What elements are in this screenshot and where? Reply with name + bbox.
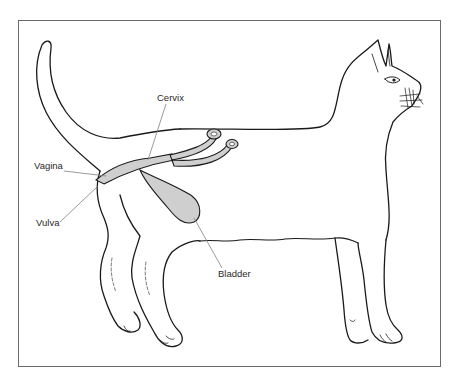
label-vulva: Vulva [36,217,59,228]
cat-paw-toes [350,320,392,342]
cat-front-leg-far [335,238,368,343]
label-cervix: Cervix [157,92,184,103]
cat-hind-thigh [97,171,140,332]
cat-front-leg-near [358,240,402,343]
cat-pupil [392,78,395,81]
cat-hind-toes [124,326,174,343]
cat-leg-detail [111,258,150,296]
leader-bladder [194,218,222,268]
cat-anatomy-illustration [0,0,456,377]
leader-vulva [60,186,98,222]
label-bladder: Bladder [218,268,251,279]
cat-tail [37,41,180,171]
cat-back [180,40,421,240]
vagina-organ [96,154,174,184]
cat-whiskers [400,88,423,108]
label-vagina: Vagina [34,160,63,171]
bladder-organ [140,170,200,223]
cat-belly [200,238,358,243]
